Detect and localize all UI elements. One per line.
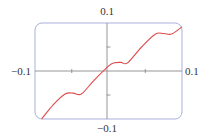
plot-canvas: 0.1 −0.1 −0.1 0.1 — [0, 0, 207, 138]
y-min-label: −0.1 — [97, 122, 117, 134]
x-max-label: 0.1 — [185, 65, 199, 77]
x-min-label: −0.1 — [11, 65, 31, 77]
function-curve — [42, 27, 182, 119]
y-max-label: 0.1 — [100, 5, 114, 17]
